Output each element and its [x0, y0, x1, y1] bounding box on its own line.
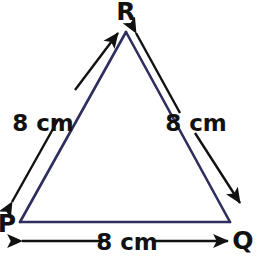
geometry-figure: R P Q 8 cm 8 cm 8 cm	[0, 0, 257, 256]
vertex-label-P: P	[0, 209, 16, 238]
side-measure-label-PQ: 8 cm	[96, 229, 158, 255]
dimension-arrow-RQ-upper	[136, 33, 180, 113]
vertex-label-Q: Q	[232, 226, 253, 255]
triangle-diagram-canvas: R P Q 8 cm 8 cm 8 cm	[0, 0, 257, 256]
dimension-arrow-PR-upper	[75, 33, 118, 90]
vertex-label-R: R	[116, 0, 135, 26]
side-measure-label-RQ: 8 cm	[165, 110, 227, 136]
side-measure-label-PR: 8 cm	[12, 110, 74, 136]
